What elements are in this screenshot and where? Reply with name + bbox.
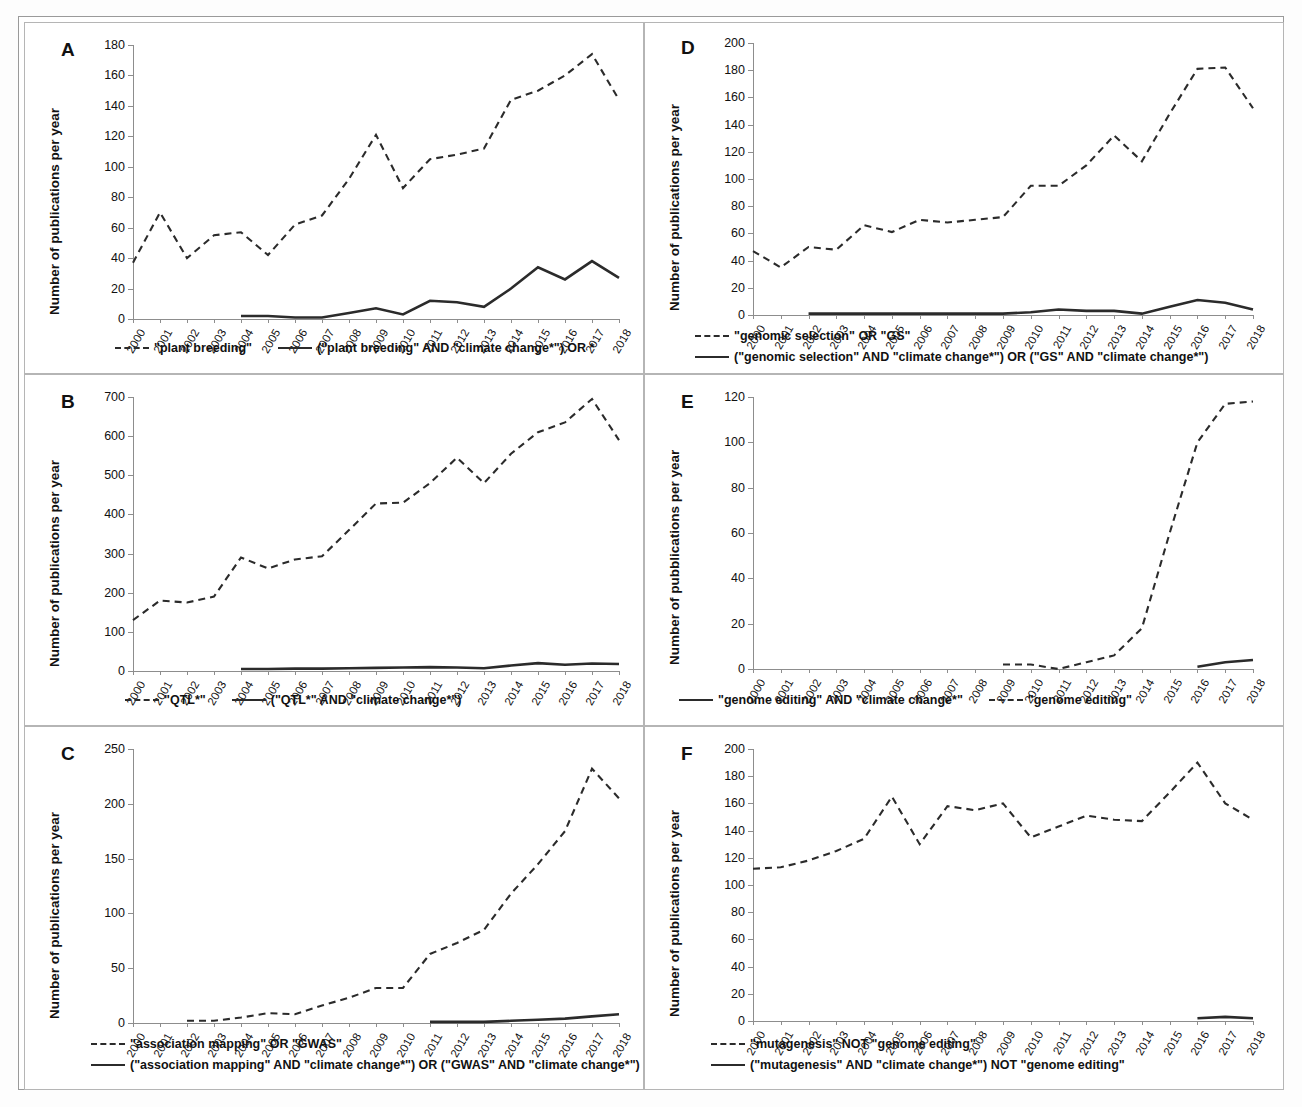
legend-item: "mutagenesis" NOT "genome editing" xyxy=(711,1037,1125,1051)
x-tick-mark xyxy=(538,319,539,323)
y-tick-label: 0 xyxy=(707,1014,745,1028)
x-tick-mark xyxy=(1086,1021,1087,1025)
x-tick-mark xyxy=(753,1021,754,1025)
legend-item: "association mapping" OR "GWAS" xyxy=(91,1037,640,1051)
x-tick-mark xyxy=(160,671,161,675)
y-axis-label: Number of publications per year xyxy=(47,108,62,315)
panel-letter: F xyxy=(681,743,693,765)
x-tick-mark xyxy=(565,319,566,323)
legend-item-label: ("mutagenesis" AND "climate change*") NO… xyxy=(750,1058,1125,1072)
x-tick-label: 2016 xyxy=(1181,677,1211,718)
x-tick-mark xyxy=(781,669,782,673)
x-tick-mark xyxy=(1086,315,1087,319)
legend-item-label: "genome editing" xyxy=(1028,693,1132,707)
x-tick-mark xyxy=(403,319,404,323)
chart-legend: "plant breeding"("plant breeding" AND "c… xyxy=(115,341,620,355)
x-tick-mark xyxy=(753,669,754,673)
x-tick-mark xyxy=(484,1023,485,1027)
y-tick-label: 80 xyxy=(707,905,745,919)
y-tick-label: 120 xyxy=(87,129,125,143)
x-tick-mark xyxy=(1059,1021,1060,1025)
y-tick-label: 100 xyxy=(707,172,745,186)
y-tick-label: 150 xyxy=(87,852,125,866)
x-tick-mark xyxy=(133,319,134,323)
chart-legend: "association mapping" OR "GWAS"("associa… xyxy=(91,1037,666,1072)
series-layer xyxy=(133,749,619,1023)
x-tick-mark xyxy=(920,315,921,319)
x-tick-mark xyxy=(214,671,215,675)
x-tick-mark xyxy=(1225,315,1226,319)
x-tick-mark xyxy=(864,315,865,319)
y-axis-label: Number of publications per year xyxy=(667,104,682,311)
y-tick-label: 60 xyxy=(707,526,745,540)
plot-area xyxy=(133,45,619,319)
y-tick-label: 100 xyxy=(87,160,125,174)
legend-item: "plant breeding" xyxy=(115,341,252,355)
chart-legend: "genome editing" AND "climate change*""g… xyxy=(679,693,1158,707)
x-tick-mark xyxy=(809,315,810,319)
series-line-solid xyxy=(430,1014,619,1022)
legend-line-swatch-dashed xyxy=(91,1043,125,1045)
x-tick-mark xyxy=(322,1023,323,1027)
x-tick-mark xyxy=(975,1021,976,1025)
x-tick-mark xyxy=(133,1023,134,1027)
y-axis-label: Number of pubblications per year xyxy=(667,450,682,665)
legend-item-label: "genome editing" AND "climate change*" xyxy=(718,693,963,707)
y-tick-label: 20 xyxy=(707,281,745,295)
x-tick-mark xyxy=(430,1023,431,1027)
x-tick-mark xyxy=(920,1021,921,1025)
legend-line-swatch-dashed xyxy=(115,347,149,349)
x-tick-mark xyxy=(892,669,893,673)
x-tick-label: 2018 xyxy=(1237,323,1267,364)
x-tick-mark xyxy=(920,669,921,673)
x-tick-mark xyxy=(1253,669,1254,673)
y-tick-label: 140 xyxy=(707,824,745,838)
y-tick-label: 60 xyxy=(707,932,745,946)
plot-area xyxy=(133,749,619,1023)
y-tick-label: 120 xyxy=(707,145,745,159)
x-tick-mark xyxy=(619,671,620,675)
legend-item-label: "mutagenesis" NOT "genome editing" xyxy=(750,1037,976,1051)
legend-item: ("mutagenesis" AND "climate change*") NO… xyxy=(711,1058,1125,1072)
series-line-dashed xyxy=(753,67,1253,267)
x-tick-mark xyxy=(864,1021,865,1025)
x-tick-mark xyxy=(511,1023,512,1027)
chart-panel-f: FNumber of publications per year02040608… xyxy=(644,726,1284,1090)
x-tick-mark xyxy=(1170,1021,1171,1025)
y-tick-label: 120 xyxy=(707,390,745,404)
figure-root: ANumber of publications per year02040608… xyxy=(0,0,1302,1107)
x-tick-mark xyxy=(619,1023,620,1027)
y-tick-label: 250 xyxy=(87,742,125,756)
x-tick-mark xyxy=(1142,669,1143,673)
plot-area xyxy=(753,397,1253,669)
chart-legend: "genomic selection" OR "GS"("genomic sel… xyxy=(695,329,1234,364)
x-tick-mark xyxy=(376,319,377,323)
panel-letter: A xyxy=(61,39,75,61)
x-tick-mark xyxy=(1142,315,1143,319)
x-tick-label: 2018 xyxy=(1237,1029,1267,1070)
y-tick-label: 180 xyxy=(707,769,745,783)
y-tick-label: 400 xyxy=(87,507,125,521)
x-tick-mark xyxy=(836,1021,837,1025)
y-axis-label: Number of publications per year xyxy=(667,810,682,1017)
x-tick-mark xyxy=(1031,1021,1032,1025)
x-tick-mark xyxy=(376,671,377,675)
y-tick-label: 500 xyxy=(87,468,125,482)
x-tick-mark xyxy=(1197,1021,1198,1025)
x-tick-label: 2015 xyxy=(1154,677,1184,718)
x-tick-mark xyxy=(1197,315,1198,319)
legend-item: ("association mapping" AND "climate chan… xyxy=(91,1058,640,1072)
y-tick-label: 50 xyxy=(87,961,125,975)
legend-line-swatch-solid xyxy=(91,1064,125,1066)
y-axis-label: Number of publications per year xyxy=(47,812,62,1019)
legend-line-swatch-dashed xyxy=(989,699,1023,701)
x-tick-mark xyxy=(947,315,948,319)
x-tick-mark xyxy=(1142,1021,1143,1025)
x-tick-mark xyxy=(484,671,485,675)
x-tick-mark xyxy=(1225,669,1226,673)
legend-item-label: "QTL*" xyxy=(164,693,206,707)
y-tick-label: 80 xyxy=(707,481,745,495)
series-layer xyxy=(753,397,1253,669)
x-tick-mark xyxy=(864,669,865,673)
y-tick-label: 200 xyxy=(707,36,745,50)
